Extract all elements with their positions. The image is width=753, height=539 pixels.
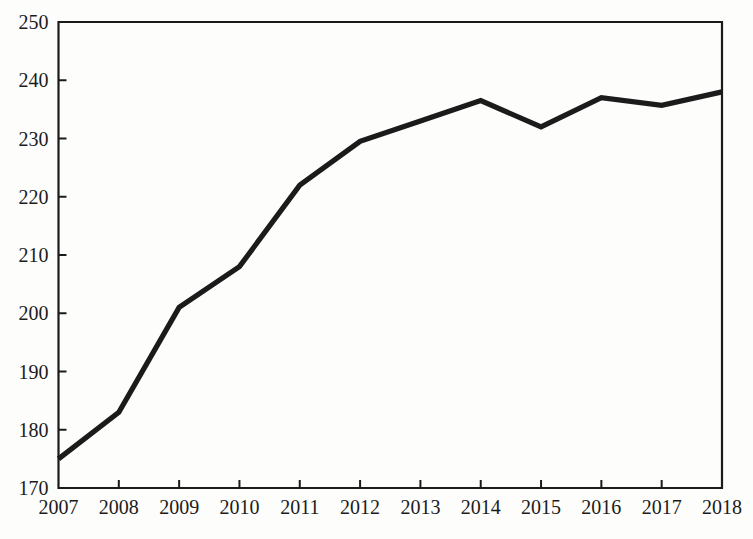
y-axis-tick-label: 220 xyxy=(19,186,49,208)
x-axis-tick-label: 2012 xyxy=(340,496,380,518)
plot-area-frame xyxy=(59,22,723,488)
x-axis-tick-label: 2017 xyxy=(642,496,682,518)
chart-page: 170180190200210220230240250 200720082009… xyxy=(0,0,753,539)
x-axis-tick-label-group: 2007200820092010201120122013201420152016… xyxy=(39,496,743,518)
x-axis-tick-label: 2013 xyxy=(400,496,440,518)
line-chart-figure: 170180190200210220230240250 200720082009… xyxy=(0,0,753,539)
y-axis-tick-label: 250 xyxy=(19,11,49,33)
x-axis-tick-label: 2010 xyxy=(219,496,259,518)
data-series-line xyxy=(59,92,723,459)
y-axis-tick-label: 180 xyxy=(19,419,49,441)
x-axis-tick-label: 2015 xyxy=(521,496,561,518)
x-axis-tick-label: 2009 xyxy=(159,496,199,518)
x-axis-tick-label: 2008 xyxy=(99,496,139,518)
x-axis-tick-label: 2007 xyxy=(39,496,79,518)
chart-canvas: 170180190200210220230240250 200720082009… xyxy=(0,0,753,539)
x-axis-tick-label: 2011 xyxy=(280,496,319,518)
x-axis-tick-mark-group xyxy=(119,480,662,488)
y-axis-tick-label: 240 xyxy=(19,69,49,91)
x-axis-tick-label: 2018 xyxy=(702,496,742,518)
y-axis-tick-label: 210 xyxy=(19,244,49,266)
y-axis-tick-mark-group xyxy=(59,80,67,430)
y-axis-tick-label: 190 xyxy=(19,361,49,383)
x-axis-tick-label: 2014 xyxy=(461,496,501,518)
y-axis-tick-label-group: 170180190200210220230240250 xyxy=(19,11,49,499)
x-axis-tick-label: 2016 xyxy=(581,496,621,518)
y-axis-tick-label: 200 xyxy=(19,302,49,324)
y-axis-tick-label: 230 xyxy=(19,128,49,150)
